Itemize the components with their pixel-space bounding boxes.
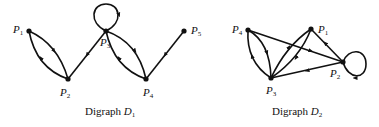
- label-d2-p1: P1: [317, 23, 329, 37]
- digraph-d1: P1 P2 P3 P4 P5 Digraph D1: [12, 4, 202, 119]
- label-d2-p2: P2: [329, 67, 341, 81]
- node-d2-p3: [268, 75, 273, 80]
- node-d1-p4: [143, 76, 148, 81]
- digraphs-figure: P1 P2 P3 P4 P5 Digraph D1: [0, 0, 379, 127]
- node-d1-p1: [26, 28, 31, 33]
- node-d2-p2: [340, 59, 345, 64]
- node-d2-p4: [245, 27, 250, 32]
- caption-d2: Digraph D2: [272, 105, 323, 119]
- edge-d1-p1-p2: [29, 31, 68, 79]
- node-d1-p5: [181, 28, 186, 33]
- label-d2-p3: P3: [265, 84, 277, 98]
- node-d1-p2: [65, 76, 70, 81]
- edge-d1-p2-p1: [29, 31, 68, 79]
- edge-d1-p3-p4: [106, 31, 146, 79]
- label-d1-p5: P5: [190, 24, 202, 38]
- label-d1-p1: P1: [12, 23, 24, 37]
- edge-d1-p4-p3: [106, 31, 146, 79]
- label-d1-p2: P2: [59, 86, 71, 100]
- node-d1-p3: [103, 28, 108, 33]
- label-d1-p4: P4: [142, 86, 154, 100]
- node-d2-p1: [308, 26, 313, 31]
- edge-d1-p3-loop: [94, 4, 118, 31]
- edge-d2-p2-loop: [343, 52, 366, 76]
- caption-d1: Digraph D1: [85, 105, 136, 119]
- label-d2-p4: P4: [231, 23, 243, 37]
- digraph-d2: P1 P2 P3 P4 Digraph D2: [231, 23, 366, 119]
- label-d1-p3: P3: [99, 36, 111, 50]
- edge-d2-p4-p2: [248, 30, 343, 62]
